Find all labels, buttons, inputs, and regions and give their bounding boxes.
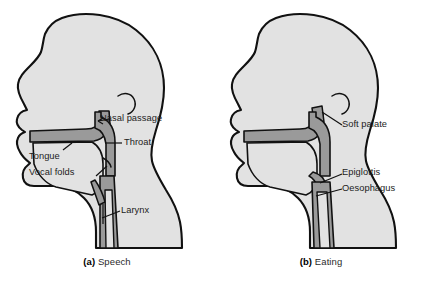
label-nasal-passage: Nasal passage [100, 114, 162, 123]
caption-eating: (b) Eating [214, 256, 428, 267]
larynx-closed-eating [317, 192, 330, 248]
label-soft-palate: Soft palate [342, 120, 387, 129]
label-tongue: Tongue [29, 152, 60, 161]
label-throat: Throat [124, 138, 151, 147]
caption-marker-a: (a) [83, 256, 95, 267]
trachea-lumen-speech [105, 190, 114, 248]
label-epiglottis: Epiglottis [342, 168, 380, 177]
caption-text-speech: Speech [98, 256, 131, 267]
panel-eating: Soft palate Epiglottis Oesophagus (b) Ea… [214, 0, 428, 296]
speech-head-diagram [0, 0, 214, 250]
panel-speech: Nasal passage Throat Tongue Vocal folds … [0, 0, 214, 296]
eating-head-diagram [214, 0, 428, 250]
caption-speech: (a) Speech [0, 256, 214, 267]
caption-text-eating: Eating [315, 256, 343, 267]
figure-container: Nasal passage Throat Tongue Vocal folds … [0, 0, 428, 296]
label-oesophagus: Oesophagus [342, 184, 395, 193]
label-vocal-folds: Vocal folds [29, 168, 75, 177]
label-larynx: Larynx [121, 206, 149, 215]
caption-marker-b: (b) [300, 256, 312, 267]
